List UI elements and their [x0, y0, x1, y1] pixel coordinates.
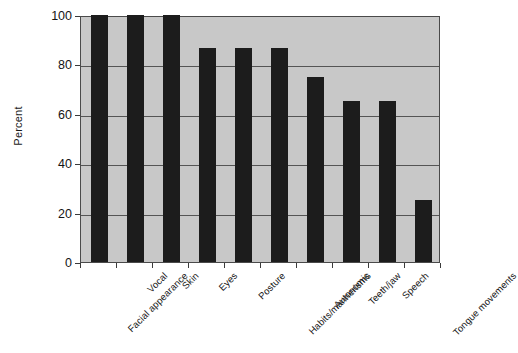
x-tick-mark	[116, 263, 117, 268]
bar	[415, 200, 432, 262]
bar	[163, 15, 180, 262]
bar	[379, 101, 396, 262]
bar	[307, 77, 324, 262]
y-tick-label: 100	[32, 10, 72, 23]
x-tick-mark	[260, 263, 261, 268]
bar	[91, 15, 108, 262]
x-category-label: Teeth/jaw	[366, 270, 403, 307]
x-category-label: Autonomic	[331, 270, 371, 310]
x-tick-mark	[80, 263, 81, 268]
x-tick-mark	[188, 263, 189, 268]
x-tick-mark	[404, 263, 405, 268]
x-tick-mark	[224, 263, 225, 268]
plot-area	[80, 16, 440, 263]
y-axis-title: Percent	[12, 76, 24, 176]
x-tick-mark	[332, 263, 333, 268]
y-tick-label: 60	[32, 109, 72, 122]
y-tick-label: 0	[32, 257, 72, 270]
bar	[235, 48, 252, 262]
x-tick-mark	[296, 263, 297, 268]
bar	[343, 101, 360, 262]
x-category-label: Posture	[256, 270, 287, 301]
x-tick-mark	[368, 263, 369, 268]
x-category-label: Speech	[400, 270, 431, 301]
y-tick-label: 20	[32, 208, 72, 221]
x-tick-mark	[440, 263, 441, 268]
x-category-label: Tongue movements	[451, 270, 518, 338]
x-category-label: Eyes	[216, 270, 239, 293]
bar	[199, 48, 216, 262]
y-tick-label: 80	[32, 59, 72, 72]
x-tick-mark	[152, 263, 153, 268]
y-tick-label: 40	[32, 158, 72, 171]
bar	[127, 15, 144, 262]
bar	[271, 48, 288, 262]
